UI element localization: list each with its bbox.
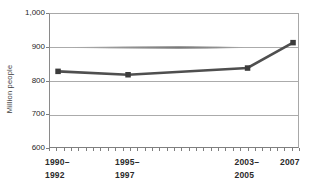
x-tick-mark	[181, 148, 182, 151]
plot-area	[49, 13, 299, 148]
x-tick-mark	[152, 148, 153, 151]
x-tick-label-line: 1990–	[45, 156, 70, 169]
x-tick-mark	[78, 148, 79, 151]
y-tick-label-600: 600	[0, 143, 45, 153]
y-axis-title-text: Million people	[5, 65, 14, 114]
x-tick-mark	[86, 148, 87, 151]
x-tick-label-line: 2003–	[235, 156, 260, 169]
series-polyline	[58, 43, 293, 75]
line-chart-figure: Million people 6007008009001,000 1990–19…	[0, 0, 315, 187]
x-tick-label-line: 2007	[280, 156, 300, 169]
data-point-marker-1990–1992	[55, 69, 61, 75]
x-tick-mark	[211, 148, 212, 151]
x-tick-mark	[174, 148, 175, 151]
x-tick-label-2007: 2007	[280, 156, 300, 169]
x-tick-mark	[56, 148, 57, 151]
x-tick-mark	[123, 148, 124, 151]
x-tick-mark	[167, 148, 168, 151]
x-tick-mark	[130, 148, 131, 151]
x-tick-mark	[108, 148, 109, 151]
x-tick-mark	[233, 148, 234, 151]
x-tick-mark	[196, 148, 197, 151]
x-tick-label-2003–2005: 2003–2005	[235, 156, 260, 182]
x-tick-mark	[277, 148, 278, 151]
x-tick-mark	[49, 148, 50, 151]
x-tick-mark	[255, 148, 256, 151]
data-point-marker-2003–2005	[245, 65, 251, 71]
x-tick-mark	[262, 148, 263, 151]
y-tick-label-1000: 1,000	[0, 8, 45, 18]
x-tick-label-1995–1997: 1995–1997	[115, 156, 140, 182]
x-tick-mark	[100, 148, 101, 151]
x-tick-mark	[115, 148, 116, 151]
data-point-marker-2007	[290, 40, 296, 46]
data-series-line	[50, 14, 300, 149]
x-tick-mark	[189, 148, 190, 151]
x-tick-mark	[240, 148, 241, 151]
x-tick-mark	[248, 148, 249, 151]
x-tick-mark	[93, 148, 94, 151]
x-tick-mark	[270, 148, 271, 151]
x-tick-mark	[203, 148, 204, 151]
y-tick-label-800: 800	[0, 76, 45, 86]
x-tick-mark	[225, 148, 226, 151]
y-tick-label-900: 900	[0, 42, 45, 52]
x-tick-label-line: 1995–	[115, 156, 140, 169]
x-tick-mark	[299, 148, 300, 151]
y-tick-label-700: 700	[0, 109, 45, 119]
x-tick-mark	[71, 148, 72, 151]
data-point-marker-1995–1997	[125, 72, 131, 78]
x-tick-mark	[64, 148, 65, 151]
x-tick-mark	[284, 148, 285, 151]
x-tick-mark	[137, 148, 138, 151]
x-tick-mark	[159, 148, 160, 151]
x-tick-label-line: 1992	[45, 169, 70, 182]
x-tick-label-1990–1992: 1990–1992	[45, 156, 70, 182]
x-tick-label-line: 2005	[235, 169, 260, 182]
x-tick-mark	[292, 148, 293, 151]
x-tick-mark	[218, 148, 219, 151]
x-tick-mark	[145, 148, 146, 151]
x-tick-label-line: 1997	[115, 169, 140, 182]
